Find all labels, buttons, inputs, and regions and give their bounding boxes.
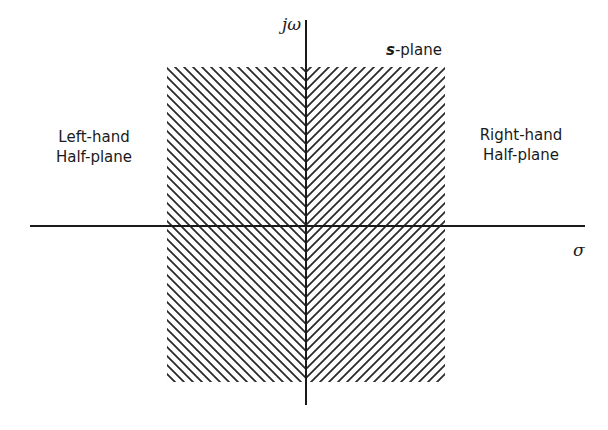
left-label-line1: Left-hand <box>44 127 144 147</box>
right-hatched-region <box>306 67 445 382</box>
s-plane-title: s-plane <box>386 40 442 60</box>
right-half-plane-label: Right-hand Half-plane <box>465 125 577 165</box>
right-label-line2: Half-plane <box>465 145 577 165</box>
left-half-plane-label: Left-hand Half-plane <box>44 127 144 167</box>
diagram-graphics <box>0 0 608 430</box>
imaginary-axis-label: jω <box>282 14 301 34</box>
right-label-line1: Right-hand <box>465 125 577 145</box>
s-variable: s <box>386 41 395 59</box>
s-plane-diagram: jω s-plane Left-hand Half-plane Right-ha… <box>0 0 608 430</box>
real-axis-label: σ <box>573 240 585 260</box>
left-hatched-region <box>167 67 306 382</box>
left-label-line2: Half-plane <box>44 147 144 167</box>
plane-suffix: -plane <box>395 41 442 59</box>
